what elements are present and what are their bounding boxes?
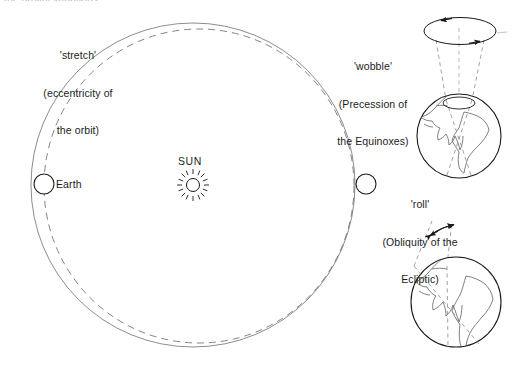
globe-precession <box>417 94 501 178</box>
earth-left-body <box>34 174 54 194</box>
edge-tick-mark <box>497 32 507 33</box>
earth-label: Earth <box>56 178 82 191</box>
roll-line3: Ecliptic) <box>372 273 468 286</box>
wobble-annotation: 'wobble' (Precession of the Equinoxes) <box>330 35 416 173</box>
sun-label: SUN <box>178 155 202 168</box>
stretch-line3: the orbit) <box>22 124 134 137</box>
roll-line2: (Obliquity of the <box>372 236 468 249</box>
stretch-keyword: 'stretch' <box>22 49 134 62</box>
wobble-keyword: 'wobble' <box>330 60 416 73</box>
wobble-line2: (Precession of <box>330 98 416 111</box>
stretch-line2: (eccentricity of <box>22 87 134 100</box>
wobble-line3: the Equinoxes) <box>330 135 416 148</box>
stretch-annotation: 'stretch' (eccentricity of the orbit) <box>22 24 134 162</box>
roll-keyword: 'roll' <box>372 198 468 211</box>
precession-cone <box>436 28 484 100</box>
sun-symbol <box>177 169 209 201</box>
precession-ellipse <box>424 18 496 45</box>
orbital-variations-figure: the orbital variations 'stretch' (eccent… <box>0 0 517 373</box>
roll-annotation: 'roll' (Obliquity of the Ecliptic) <box>372 173 468 311</box>
cropped-heading: the orbital variations <box>4 0 98 1</box>
